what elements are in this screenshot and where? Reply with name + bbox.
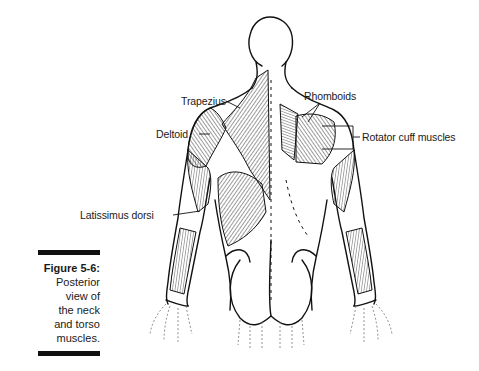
- torso-right-side: [311, 200, 327, 310]
- label-trapezius: Trapezius: [181, 95, 226, 107]
- label-rhomboids: Rhomboids: [304, 90, 356, 102]
- head-outline: [249, 17, 293, 66]
- label-rotator-cuff: Rotator cuff muscles: [362, 131, 456, 143]
- caption-line: and torso: [38, 317, 100, 331]
- caption-line: the neck: [38, 303, 100, 317]
- right-hand: [350, 304, 392, 342]
- caption-bottom-rule: [38, 351, 100, 356]
- left-hand: [150, 304, 192, 342]
- caption-line: Posterior: [38, 275, 100, 289]
- anatomy-figure: Trapezius Rhomboids Deltoid Rotator cuff…: [0, 0, 479, 371]
- caption-top-rule: [38, 250, 100, 255]
- figure-caption: Figure 5-6: Posterior view of the neck a…: [38, 250, 100, 356]
- rotator-cuff-muscle: [296, 114, 335, 164]
- latissimus-muscle: [218, 172, 266, 246]
- caption-line: muscles.: [38, 331, 100, 345]
- rhomboids-muscle: [280, 104, 298, 160]
- trapezius-leader: [226, 101, 240, 108]
- caption-text: Figure 5-6: Posterior view of the neck a…: [38, 261, 100, 345]
- label-deltoid: Deltoid: [156, 128, 188, 140]
- figure-number: Figure 5-6:: [38, 261, 100, 275]
- caption-line: view of: [38, 289, 100, 303]
- latissimus-leader: [173, 211, 200, 215]
- label-latissimus-dorsi: Latissimus dorsi: [80, 209, 154, 221]
